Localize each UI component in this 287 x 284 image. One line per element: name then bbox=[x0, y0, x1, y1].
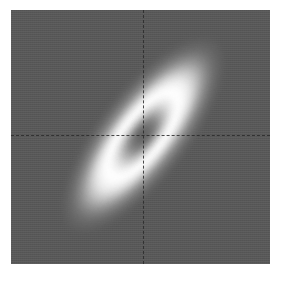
vertical-reference-line bbox=[143, 10, 144, 264]
page-title bbox=[0, 21, 1, 22]
plot-area bbox=[11, 10, 270, 264]
contour-figure bbox=[0, 0, 287, 284]
horizontal-reference-line bbox=[11, 135, 270, 136]
